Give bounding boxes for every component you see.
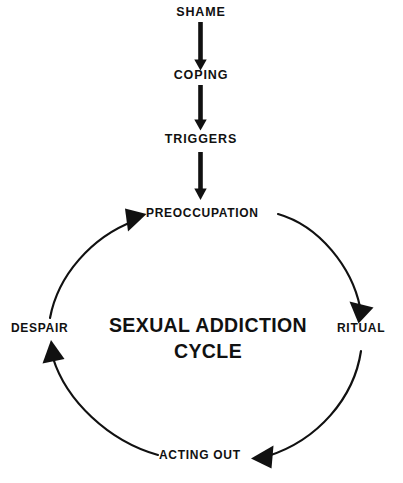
cycle-center-title-line1: SEXUAL ADDICTION [109,313,307,339]
cycle-arc-despair-to-preoccupation [50,209,147,319]
cycle-arc-ritual-to-acting-out [251,351,361,469]
cycle-node-acting-out: ACTING OUT [159,449,241,462]
diagram-canvas: SHAME COPING TRIGGERS PREOCCUPATION RITU… [0,0,403,483]
chain-label-shame: SHAME [176,6,226,19]
chain-label-triggers: TRIGGERS [165,133,237,146]
cycle-node-preoccupation: PREOCCUPATION [146,207,259,220]
cycle-center-title: SEXUAL ADDICTION CYCLE [109,313,307,364]
cycle-node-despair: DESPAIR [11,322,68,335]
chain-arrow-triggers-to-preoccupation [194,152,206,200]
cycle-center-title-line2: CYCLE [109,339,307,365]
cycle-arc-preoccupation-to-ritual [278,214,374,324]
chain-arrow-shame-to-coping [194,22,206,71]
chain-label-coping: COPING [174,69,229,82]
chain-arrow-coping-to-triggers [194,85,206,131]
cycle-node-ritual: RITUAL [337,322,385,335]
